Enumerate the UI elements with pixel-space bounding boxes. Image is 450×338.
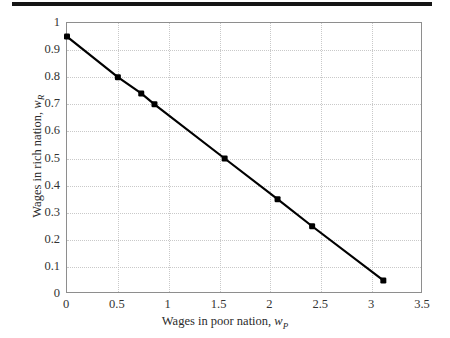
- y-axis-title-text: Wages in rich nation,: [30, 109, 44, 218]
- x-axis-title: Wages in poor nation, wP: [0, 314, 450, 331]
- x-tick-label: 0: [63, 298, 69, 311]
- y-axis-title: Wages in rich nation, wR: [30, 56, 47, 256]
- x-axis-title-symbol: wP: [274, 314, 288, 328]
- x-tick-label: 3: [368, 298, 374, 311]
- x-axis-title-text: Wages in poor nation,: [162, 314, 275, 328]
- x-tick-label: 2: [266, 298, 272, 311]
- x-axis-tick-labels: 00.511.522.533.5: [0, 0, 450, 338]
- y-axis-title-symbol: wR: [30, 95, 44, 109]
- x-tick-label: 0.5: [109, 298, 125, 311]
- x-tick-label: 1.5: [211, 298, 227, 311]
- x-tick-label: 2.5: [312, 298, 328, 311]
- x-tick-label: 3.5: [414, 298, 430, 311]
- chart-figure: 00.10.20.30.40.50.60.70.80.91 00.511.522…: [0, 0, 450, 338]
- x-tick-label: 1: [165, 298, 171, 311]
